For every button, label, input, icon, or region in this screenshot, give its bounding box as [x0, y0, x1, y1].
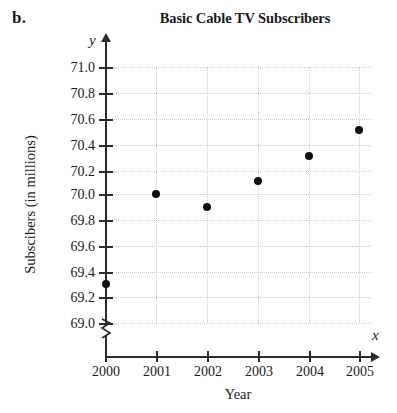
y-tick-mark	[99, 272, 113, 274]
y-axis-title: Subscibers (in millions)	[22, 105, 39, 305]
y-axis-arrow-icon	[101, 33, 111, 42]
gridline-horizontal	[106, 220, 371, 221]
gridline-horizontal	[106, 323, 371, 324]
x-tick-mark	[207, 351, 209, 362]
plot-area	[106, 67, 371, 323]
gridline-horizontal	[106, 119, 371, 120]
x-axis-title: Year	[105, 386, 371, 403]
x-tick-label: 2000	[78, 364, 134, 380]
axis-break-icon	[97, 318, 117, 340]
gridline-horizontal	[106, 246, 371, 247]
x-tick-label: 2002	[180, 364, 236, 380]
y-tick-mark	[99, 93, 113, 95]
y-tick-label: 69.6	[51, 240, 95, 254]
data-point	[305, 152, 313, 160]
gridline-vertical	[359, 67, 360, 323]
y-tick-label: 69.8	[51, 214, 95, 228]
y-tick-mark	[99, 323, 113, 325]
data-point	[203, 203, 211, 211]
y-tick-mark	[99, 220, 113, 222]
gridline-horizontal	[106, 67, 371, 68]
y-tick-label: 70.0	[51, 188, 95, 202]
y-tick-label: 69.0	[51, 317, 95, 331]
y-tick-mark	[99, 297, 113, 299]
y-tick-mark	[99, 246, 113, 248]
x-axis-line	[105, 356, 373, 358]
y-tick-label: 70.4	[51, 139, 95, 153]
x-tick-mark	[258, 351, 260, 362]
y-tick-label: 70.8	[51, 87, 95, 101]
gridline-horizontal	[106, 194, 371, 195]
y-tick-labels: 71.0 70.8 70.6 70.4 70.2 70.0 69.8 69.6 …	[47, 0, 95, 413]
part-label: b.	[12, 8, 26, 28]
y-tick-label: 70.2	[51, 165, 95, 179]
x-axis-letter: x	[372, 327, 379, 344]
data-point	[355, 126, 363, 134]
x-tick-mark	[156, 351, 158, 362]
y-tick-label: 69.4	[51, 266, 95, 280]
y-tick-label: 71.0	[51, 61, 95, 75]
gridline-horizontal	[106, 272, 371, 273]
data-point	[102, 280, 110, 288]
gridline-vertical	[309, 67, 310, 323]
gridline-vertical	[207, 67, 208, 323]
x-tick-mark	[105, 351, 107, 362]
y-tick-mark	[99, 194, 113, 196]
y-tick-label: 69.2	[51, 291, 95, 305]
y-tick-mark	[99, 171, 113, 173]
x-tick-label: 2005	[332, 364, 388, 380]
gridline-vertical	[258, 67, 259, 323]
gridline-horizontal	[106, 145, 371, 146]
y-tick-mark	[99, 67, 113, 69]
y-tick-mark	[99, 145, 113, 147]
x-axis-arrow-icon	[371, 352, 380, 362]
x-tick-mark	[309, 351, 311, 362]
x-tick-mark	[359, 351, 361, 362]
gridline-horizontal	[106, 171, 371, 172]
x-tick-label: 2004	[282, 364, 338, 380]
data-point	[254, 177, 262, 185]
y-tick-label: 70.6	[51, 113, 95, 127]
x-tick-label: 2003	[231, 364, 287, 380]
x-tick-label: 2001	[129, 364, 185, 380]
gridline-horizontal	[106, 297, 371, 298]
gridline-horizontal	[106, 93, 371, 94]
y-tick-mark	[99, 119, 113, 121]
chart-title: Basic Cable TV Subscribers	[110, 10, 380, 27]
data-point	[152, 190, 160, 198]
